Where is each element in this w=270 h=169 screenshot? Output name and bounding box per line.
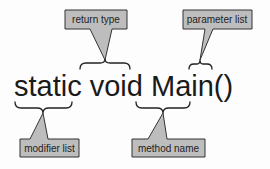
callout-method-name-label: method name: [138, 143, 200, 154]
code-signature: static void Main(): [14, 70, 233, 102]
callout-method-name: method name: [132, 102, 205, 157]
callout-parameter-list: parameter list: [183, 10, 252, 69]
callout-modifier-list: modifier list: [15, 102, 79, 157]
method-signature-diagram: return type parameter list static void M…: [0, 0, 270, 169]
diagram-canvas: return type parameter list static void M…: [0, 0, 270, 169]
brace-return-type-icon: [80, 59, 130, 69]
callout-return-type-label: return type: [72, 14, 120, 25]
callout-parameter-list-label: parameter list: [187, 14, 248, 25]
brace-modifier-list-icon: [15, 102, 72, 113]
callout-modifier-list-label: modifier list: [24, 143, 75, 154]
brace-parameter-list-icon: [189, 60, 212, 69]
callout-return-type: return type: [65, 10, 130, 69]
brace-method-name-icon: [136, 102, 190, 113]
